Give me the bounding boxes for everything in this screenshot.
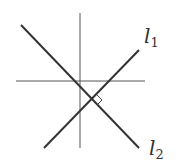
label-l1: l1	[144, 26, 159, 49]
label-l2-sub: 2	[155, 147, 163, 162]
label-l2: l2	[149, 138, 164, 161]
label-l1-sub: 1	[150, 35, 158, 50]
right-angle-marker	[97, 95, 102, 105]
